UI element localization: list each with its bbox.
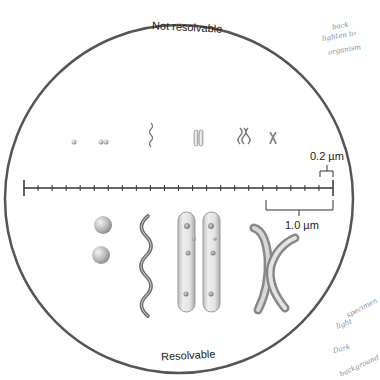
scale-large-label: 1.0 µm: [285, 219, 319, 231]
scale-bracket-large: [266, 200, 333, 216]
field-circle: [5, 25, 353, 373]
bacilli-pair: [178, 212, 220, 312]
spirillum: [141, 216, 151, 316]
scale-small-label: 0.2 µm: [310, 150, 344, 162]
small-specimens: [72, 123, 277, 147]
scale-bracket-small: [320, 165, 333, 177]
cocci-pair: [92, 216, 112, 264]
crossed-filaments: [254, 228, 295, 310]
scale-ruler: [24, 180, 333, 196]
